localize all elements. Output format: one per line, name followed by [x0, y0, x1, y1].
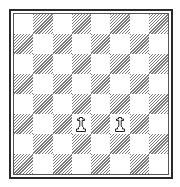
- square-c5[interactable]: [53, 74, 72, 94]
- square-b3[interactable]: [33, 114, 52, 134]
- square-g8[interactable]: [130, 14, 149, 34]
- square-a3[interactable]: [14, 114, 33, 134]
- square-e5[interactable]: [91, 74, 110, 94]
- square-b6[interactable]: [33, 54, 52, 74]
- square-a2[interactable]: [14, 134, 33, 154]
- square-b1[interactable]: [33, 154, 52, 174]
- square-a5[interactable]: [14, 74, 33, 94]
- square-d4[interactable]: [72, 94, 91, 114]
- square-f5[interactable]: [110, 74, 129, 94]
- square-c2[interactable]: [53, 134, 72, 154]
- square-f4[interactable]: [110, 94, 129, 114]
- square-e8[interactable]: [91, 14, 110, 34]
- square-d8[interactable]: [72, 14, 91, 34]
- square-a1[interactable]: [14, 154, 33, 174]
- square-b5[interactable]: [33, 74, 52, 94]
- square-e3[interactable]: [91, 114, 110, 134]
- square-c8[interactable]: [53, 14, 72, 34]
- square-d6[interactable]: [72, 54, 91, 74]
- square-c6[interactable]: [53, 54, 72, 74]
- square-h2[interactable]: [149, 134, 168, 154]
- white-pawn-icon[interactable]: [74, 116, 88, 133]
- square-b7[interactable]: [33, 34, 52, 54]
- square-h6[interactable]: [149, 54, 168, 74]
- square-b4[interactable]: [33, 94, 52, 114]
- square-b2[interactable]: [33, 134, 52, 154]
- square-d7[interactable]: [72, 34, 91, 54]
- square-g6[interactable]: [130, 54, 149, 74]
- square-h1[interactable]: [149, 154, 168, 174]
- square-g2[interactable]: [130, 134, 149, 154]
- square-a8[interactable]: [14, 14, 33, 34]
- square-g5[interactable]: [130, 74, 149, 94]
- square-h8[interactable]: [149, 14, 168, 34]
- board-frame-inner: [13, 13, 169, 175]
- square-a4[interactable]: [14, 94, 33, 114]
- square-d3[interactable]: [72, 114, 91, 134]
- square-c1[interactable]: [53, 154, 72, 174]
- square-c4[interactable]: [53, 94, 72, 114]
- square-c7[interactable]: [53, 34, 72, 54]
- square-e1[interactable]: [91, 154, 110, 174]
- chess-board: [14, 14, 168, 174]
- square-f1[interactable]: [110, 154, 129, 174]
- square-h3[interactable]: [149, 114, 168, 134]
- white-pawn-icon[interactable]: [113, 116, 127, 133]
- board-frame-outer: [9, 9, 173, 179]
- square-f2[interactable]: [110, 134, 129, 154]
- square-e7[interactable]: [91, 34, 110, 54]
- square-h5[interactable]: [149, 74, 168, 94]
- square-h4[interactable]: [149, 94, 168, 114]
- square-a6[interactable]: [14, 54, 33, 74]
- square-e4[interactable]: [91, 94, 110, 114]
- square-b8[interactable]: [33, 14, 52, 34]
- square-f8[interactable]: [110, 14, 129, 34]
- square-h7[interactable]: [149, 34, 168, 54]
- square-d1[interactable]: [72, 154, 91, 174]
- square-f7[interactable]: [110, 34, 129, 54]
- square-d2[interactable]: [72, 134, 91, 154]
- square-d5[interactable]: [72, 74, 91, 94]
- square-e2[interactable]: [91, 134, 110, 154]
- square-e6[interactable]: [91, 54, 110, 74]
- square-a7[interactable]: [14, 34, 33, 54]
- square-g7[interactable]: [130, 34, 149, 54]
- square-g3[interactable]: [130, 114, 149, 134]
- square-g1[interactable]: [130, 154, 149, 174]
- square-f3[interactable]: [110, 114, 129, 134]
- square-c3[interactable]: [53, 114, 72, 134]
- square-g4[interactable]: [130, 94, 149, 114]
- square-f6[interactable]: [110, 54, 129, 74]
